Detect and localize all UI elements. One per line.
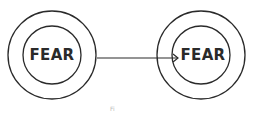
fear-diagram: FEAR FEAR Fi (0, 0, 254, 113)
node-right: FEAR (157, 11, 245, 99)
left-node-label: FEAR (30, 46, 75, 64)
arrow-edge (97, 54, 178, 62)
figure-caption: Fi (110, 105, 115, 112)
right-node-label: FEAR (181, 46, 226, 64)
node-left: FEAR (8, 11, 96, 99)
